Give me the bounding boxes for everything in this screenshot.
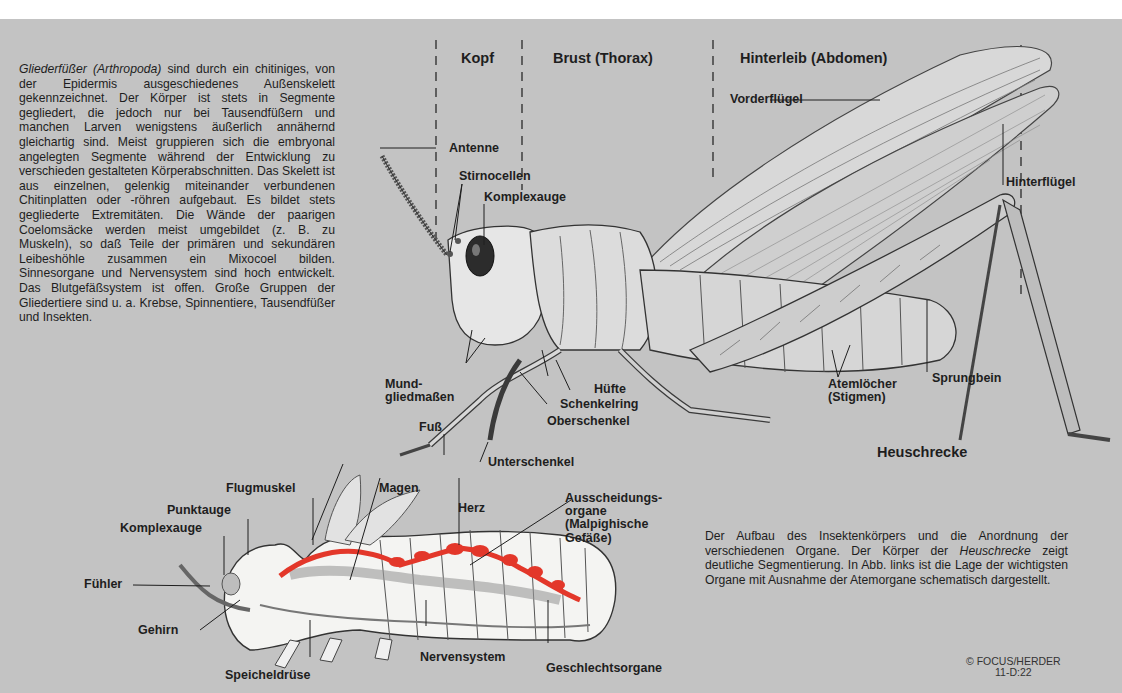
label-flugmuskel: Flugmuskel [226,482,295,495]
label-speicheldruese: Speicheldrüse [225,669,310,682]
label-mundgliedmassen: Mund- gliedmaßen [385,378,454,404]
label-atemloecher: Atemlöcher (Stigmen) [828,378,897,404]
label-schenkelring: Schenkelring [560,398,639,411]
label-unterschenkel: Unterschenkel [488,456,574,469]
figure-caption: Der Aufbau des Insektenkörpers und die A… [705,529,1068,587]
label-huefte: Hüfte [594,383,626,396]
label-geschlechtsorgane: Geschlechtsorgane [546,662,662,675]
label-hinterfluegel: Hinterflügel [1006,176,1075,189]
label-magen: Magen [379,482,419,495]
region-label-head: Kopf [461,52,494,65]
label-herz: Herz [458,502,485,515]
label-fuss: Fuß [419,421,442,434]
region-label-abdomen: Hinterleib (Abdomen) [740,52,887,65]
label-gehirn: Gehirn [138,624,178,637]
copyright-line-2: 11-D:22 [966,667,1061,678]
label-komplexauge: Komplexauge [484,191,566,204]
diagram-title-heuschrecke: Heuschrecke [877,446,967,459]
label-komplexauge-internal: Komplexauge [120,522,202,535]
label-sprungbein: Sprungbein [932,372,1001,385]
intro-paragraph: Gliederfüßer (Arthropoda) sind durch ein… [19,62,335,325]
region-label-thorax: Brust (Thorax) [553,52,653,65]
intro-lead-term: Gliederfüßer (Arthropoda) [19,62,161,76]
intro-text: sind durch ein chitiniges, von der Epide… [19,62,335,324]
internal-organs-illustration [133,464,616,668]
label-antenne: Antenne [449,142,499,155]
label-fuehler: Fühler [84,578,122,591]
label-oberschenkel: Oberschenkel [547,415,630,428]
caption-italic-term: Heuschrecke [960,544,1031,558]
copyright: © FOCUS/HERDER 11-D:22 [966,656,1061,678]
label-vorderfluegel: Vorderflügel [730,93,803,106]
label-nervensystem: Nervensystem [420,651,505,664]
grasshopper-illustration [380,47,1110,462]
label-ausscheidungsorgane: Ausscheidungs- organe (Malpighische Gefä… [565,492,662,545]
label-punktauge: Punktauge [167,504,231,517]
label-stirnocellen: Stirnocellen [459,170,531,183]
